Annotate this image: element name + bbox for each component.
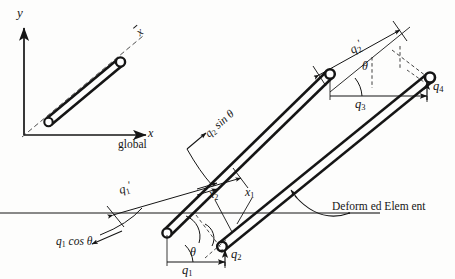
frame-label-global: global	[118, 139, 147, 151]
axis-label-y: y	[17, 6, 23, 19]
right-node-dimensions	[330, 27, 427, 102]
label-theta-right: θ	[362, 60, 368, 72]
label-q4: q4	[433, 80, 444, 94]
label-x1: x1	[245, 186, 254, 200]
label-x2: x2	[209, 188, 218, 202]
q2-sin-theta-leader	[187, 133, 212, 185]
local-coordinate-leaders	[215, 198, 252, 232]
label-q3: q3	[355, 98, 366, 112]
axis-label-x: x	[148, 127, 153, 139]
label-q1: q1	[182, 264, 193, 278]
label-q2: q2	[231, 248, 242, 262]
original-element	[162, 69, 334, 237]
label-q1-cos-theta: q1 cos θ	[56, 236, 92, 249]
undeformed-element-inset	[22, 36, 143, 137]
label-deformed-element: Deform ed Elem ent	[332, 201, 426, 213]
global-axes	[24, 28, 146, 135]
deformed-element	[217, 73, 435, 252]
label-theta-left: θ	[190, 246, 196, 258]
figure-canvas: y x global x q1′ q2′ q2 sin θ q1 cos θ x…	[0, 0, 455, 279]
